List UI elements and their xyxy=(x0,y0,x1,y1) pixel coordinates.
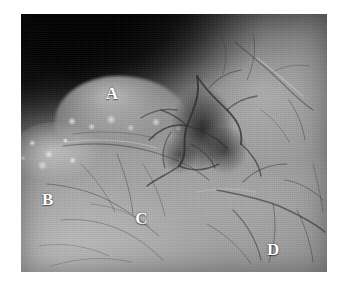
figure-page: A B C D xyxy=(0,0,345,285)
label-a: A xyxy=(106,85,118,102)
photograph: A B C D xyxy=(21,14,327,272)
label-c: C xyxy=(135,210,147,227)
label-d: D xyxy=(267,241,279,258)
photo-vignette xyxy=(21,14,327,272)
label-b: B xyxy=(42,191,53,208)
